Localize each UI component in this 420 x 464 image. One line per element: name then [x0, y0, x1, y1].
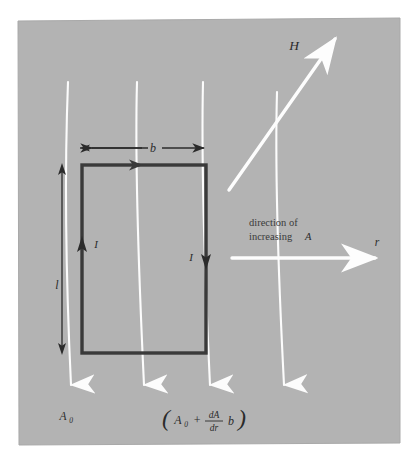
expression-close-paren: ): [236, 405, 246, 431]
vector-potential-near-symbol: A: [58, 410, 67, 422]
expression-plus: +: [193, 413, 201, 427]
field-vector-label: H: [288, 38, 300, 53]
direction-caption-line2: increasing: [249, 231, 293, 242]
expression-term1: A: [173, 413, 182, 427]
expression-numerator: dA: [209, 410, 220, 420]
expression-term1-subscript: 0: [184, 420, 188, 429]
radial-axis-label: r: [375, 236, 380, 248]
expression-denominator: dr: [210, 423, 219, 433]
magnetic-circuit-diagram: H r direction of increasing A b l: [0, 0, 420, 464]
figure-container: H r direction of increasing A b l: [0, 0, 420, 464]
width-dimension-label: b: [150, 141, 156, 155]
vector-potential-near-subscript: 0: [69, 416, 73, 425]
direction-caption-symbol: A: [304, 231, 312, 242]
direction-caption-line1: direction of: [249, 217, 298, 228]
expression-term2: b: [228, 414, 234, 428]
